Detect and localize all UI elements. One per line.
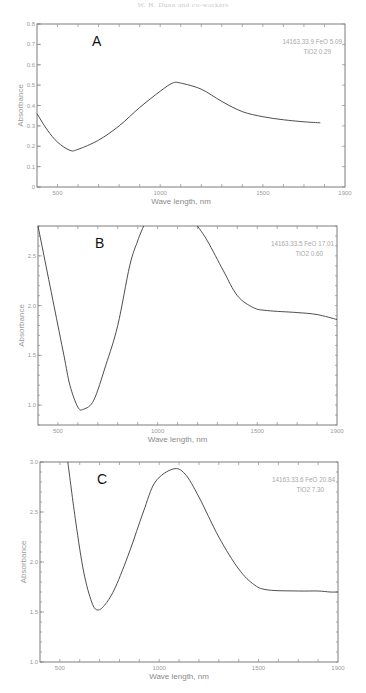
y-tick-label: 0.6 (27, 62, 36, 68)
x-tick-label: 1500 (251, 428, 265, 434)
panel-label: C (97, 471, 107, 487)
y-tick-label: 0.3 (27, 123, 36, 129)
y-tick-label: 2.0 (30, 559, 39, 565)
sample-annotation: 14163.33.5 FeO 17.01 (271, 240, 335, 247)
y-axis-label: Absorbance (19, 540, 28, 583)
x-axis-label: Wave length, nm (151, 197, 211, 206)
x-tick-label: 500 (55, 665, 66, 671)
y-tick-label: 2.0 (28, 303, 37, 309)
x-tick-label: 500 (53, 428, 64, 434)
y-tick-label: 2.5 (30, 509, 39, 515)
plot-frame (38, 226, 337, 425)
sample-annotation: 14163.33.9 FeO 5.09 (282, 38, 342, 45)
y-tick-label: 1.5 (30, 609, 39, 615)
y-axis-label: Absorbance (16, 84, 25, 127)
plot-frame (40, 462, 338, 662)
y-tick-label: 0.8 (27, 21, 36, 27)
x-tick-label: 1000 (151, 428, 165, 434)
sample-annotation-tio2: TiO2 0.29 (304, 48, 332, 55)
sample-annotation: 14163.33.6 FeO 20.84 (272, 476, 336, 483)
x-tick-label: 1900 (330, 428, 344, 434)
chart-b: 5001000150019001.01.52.02.5Wave length, … (17, 226, 344, 444)
plot-frame (37, 24, 345, 187)
x-tick-label: 1900 (331, 665, 345, 671)
y-axis-label: Absorbance (17, 304, 26, 347)
chart-panel-a: 50010001500190000.10.20.30.40.50.60.70.8… (0, 0, 366, 693)
absorbance-curve (68, 462, 338, 610)
y-tick-label: 1.0 (30, 659, 39, 665)
y-tick-label: 2.5 (28, 253, 37, 259)
x-axis-label: Wave length, nm (149, 672, 209, 681)
panel-label: A (92, 33, 102, 49)
sample-annotation-tio2: TiO2 7.30 (297, 486, 325, 493)
y-tick-label: 3.0 (30, 459, 39, 465)
y-tick-label: 0 (32, 184, 36, 190)
x-tick-label: 1000 (154, 190, 168, 196)
x-tick-label: 500 (53, 190, 64, 196)
absorbance-curve (37, 82, 320, 151)
x-tick-label: 1500 (252, 665, 266, 671)
y-tick-label: 0.1 (27, 164, 36, 170)
panel-label: B (95, 235, 104, 251)
y-tick-label: 0.7 (27, 41, 36, 47)
y-tick-label: 0.2 (27, 143, 36, 149)
x-tick-label: 1900 (338, 190, 352, 196)
x-tick-label: 1000 (153, 665, 167, 671)
absorbance-curve (38, 226, 144, 410)
sample-annotation-tio2: TiO2 0.60 (296, 250, 324, 257)
chart-c: 5001000150019001.01.52.02.53.0Wave lengt… (19, 459, 345, 681)
chart-a: 50010001500190000.10.20.30.40.50.60.70.8… (16, 21, 352, 206)
x-axis-label: Wave length, nm (148, 435, 208, 444)
y-tick-label: 1.5 (28, 352, 37, 358)
y-tick-label: 1.0 (28, 402, 37, 408)
y-tick-label: 0.5 (27, 82, 36, 88)
x-tick-label: 1500 (256, 190, 270, 196)
y-tick-label: 0.4 (27, 103, 36, 109)
